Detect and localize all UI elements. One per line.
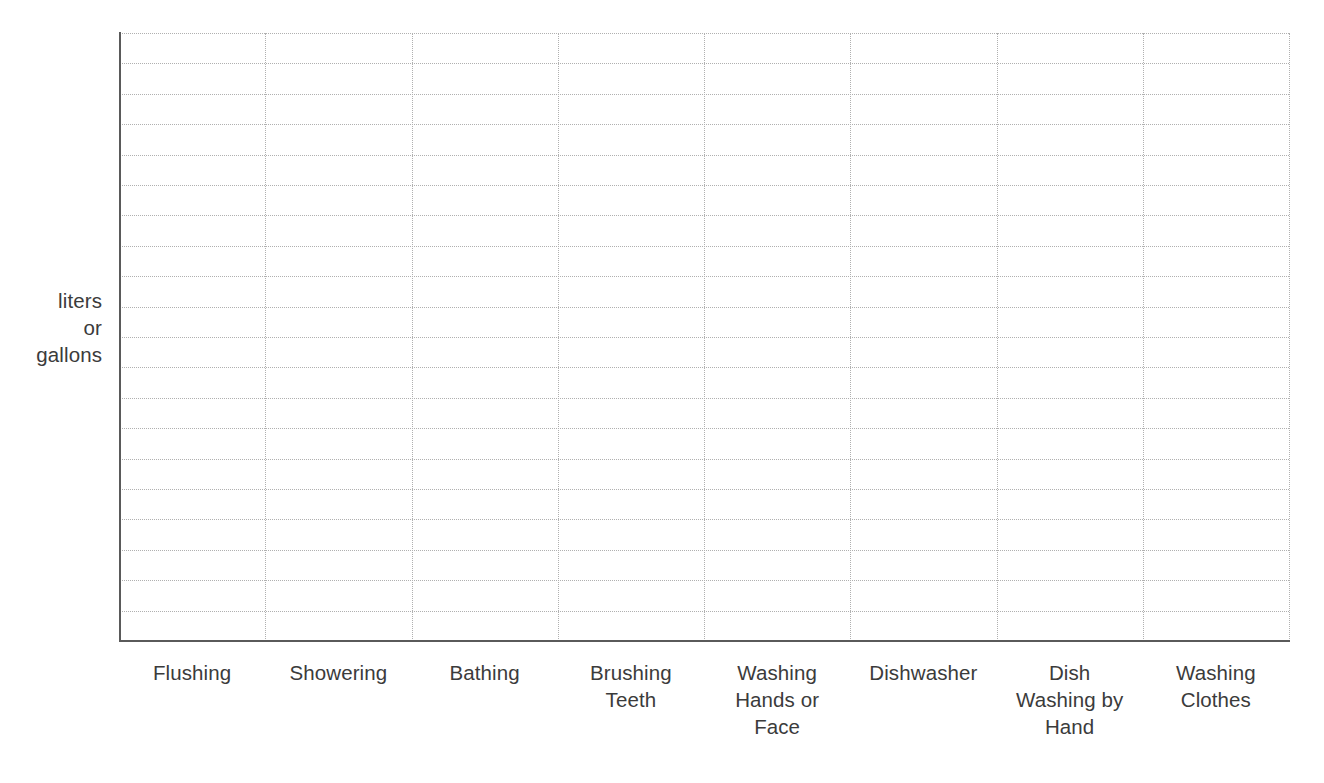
x-axis-tick-label: Washing Hands or Face bbox=[704, 659, 850, 759]
vertical-gridline bbox=[1289, 33, 1290, 641]
vertical-gridline bbox=[558, 33, 559, 641]
x-axis-tick-label: Flushing bbox=[119, 659, 265, 759]
x-axis-tick-label: Showering bbox=[265, 659, 411, 759]
x-axis-tick-label: Washing Clothes bbox=[1143, 659, 1289, 759]
x-axis-label-row: FlushingShoweringBathingBrushing TeethWa… bbox=[119, 659, 1289, 759]
x-axis-tick-label: Bathing bbox=[412, 659, 558, 759]
water-use-blank-bar-chart: liters or gallons FlushingShoweringBathi… bbox=[0, 0, 1324, 783]
x-axis-tick-label: Brushing Teeth bbox=[558, 659, 704, 759]
x-axis-tick-label: Dish Washing by Hand bbox=[997, 659, 1143, 759]
y-axis-label: liters or gallons bbox=[0, 287, 102, 368]
vertical-gridline bbox=[412, 33, 413, 641]
vertical-gridline bbox=[997, 33, 998, 641]
x-axis-tick-label: Dishwasher bbox=[850, 659, 996, 759]
y-axis-line bbox=[119, 32, 121, 642]
plot-area bbox=[119, 33, 1289, 641]
vertical-gridline bbox=[265, 33, 266, 641]
vertical-gridline bbox=[850, 33, 851, 641]
vertical-gridline bbox=[1143, 33, 1144, 641]
x-axis-line bbox=[119, 640, 1290, 642]
vertical-gridline bbox=[704, 33, 705, 641]
